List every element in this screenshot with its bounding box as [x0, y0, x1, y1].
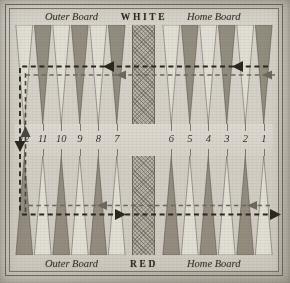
point-tick — [227, 124, 228, 131]
point-number-2: 2 — [243, 133, 248, 144]
bottom-label-row: Outer Board RED Home Board — [9, 255, 279, 272]
bottom-left-quadrant-points — [15, 156, 126, 255]
point-tick — [43, 149, 44, 156]
point-tick — [98, 124, 99, 131]
point-number-10: 10 — [56, 133, 67, 144]
point-tick — [61, 149, 62, 156]
point-tick — [80, 124, 81, 131]
point-tick — [61, 124, 62, 131]
point-tick — [117, 149, 118, 156]
point-tick — [245, 149, 246, 156]
point-number-3: 3 — [224, 133, 229, 144]
point-tick — [190, 124, 191, 131]
point-tick — [171, 149, 172, 156]
point-tick — [24, 124, 25, 131]
point-tick — [190, 149, 191, 156]
point-number-band: 121110987654321 — [15, 124, 273, 156]
top-left-quadrant-points — [15, 25, 126, 124]
point-number-12: 12 — [19, 133, 30, 144]
point-number-4: 4 — [206, 133, 211, 144]
point-number-5: 5 — [187, 133, 192, 144]
point-tick — [264, 124, 265, 131]
point-tick — [227, 149, 228, 156]
point-tick — [98, 149, 99, 156]
point-number-11: 11 — [38, 133, 48, 144]
point-tick — [24, 149, 25, 156]
point-tick — [208, 149, 209, 156]
point-number-7: 7 — [114, 133, 119, 144]
backgammon-board-diagram: Outer Board WHITE Home Board BAR 1211109… — [0, 0, 290, 283]
point-number-1: 1 — [261, 133, 266, 144]
point-tick — [208, 124, 209, 131]
point-tick — [117, 124, 118, 131]
point-tick — [171, 124, 172, 131]
bottom-right-quadrant-points — [162, 156, 273, 255]
point-number-6: 6 — [169, 133, 174, 144]
point-tick — [80, 149, 81, 156]
point-number-9: 9 — [77, 133, 82, 144]
bottom-home-board-label: Home Board — [187, 258, 241, 269]
top-right-quadrant-points — [162, 25, 273, 124]
point-tick — [43, 124, 44, 131]
point-tick — [264, 149, 265, 156]
top-label-row: Outer Board WHITE Home Board — [9, 8, 279, 25]
point-number-8: 8 — [96, 133, 101, 144]
point-tick — [245, 124, 246, 131]
top-home-board-label: Home Board — [187, 11, 241, 22]
